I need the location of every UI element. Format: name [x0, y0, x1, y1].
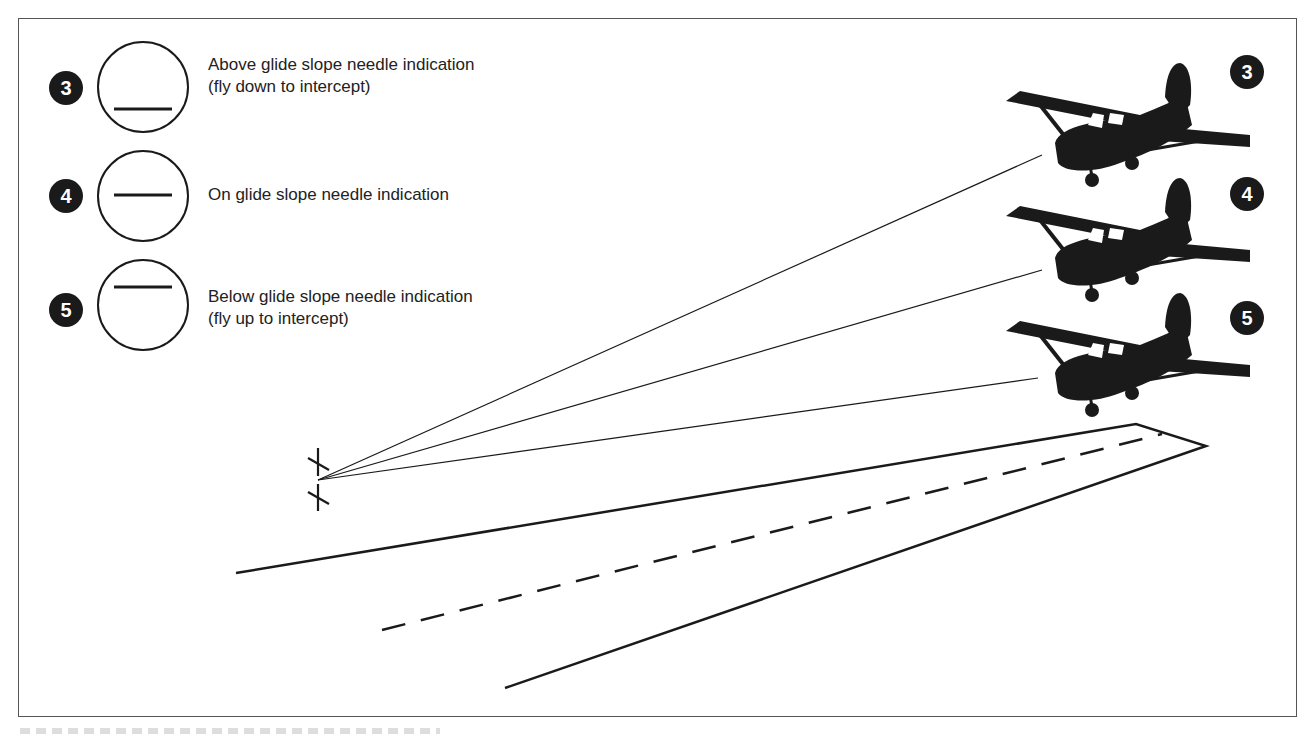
needle-indicator-below	[98, 260, 188, 350]
aircraft-badge-3: 3	[1241, 61, 1252, 83]
runway-centerline	[382, 434, 1162, 630]
aircraft-badges: 3 4 5	[1230, 55, 1264, 335]
aircraft-4	[1006, 178, 1250, 302]
figure-caption-clipped	[20, 728, 440, 734]
legend-item-5: Below glide slope needle indication (fly…	[208, 286, 473, 330]
legend-item-4-line1: On glide slope needle indication	[208, 184, 449, 206]
legend-badge-4: 4	[60, 185, 72, 207]
legend-item-5-line1: Below glide slope needle indication	[208, 286, 473, 308]
glide-slope-diagram: 3 4 5 3 4 5	[0, 0, 1315, 734]
aircraft-3	[1006, 63, 1250, 187]
legend-item-4: On glide slope needle indication	[208, 184, 449, 206]
legend-badge-5: 5	[60, 299, 71, 321]
runway	[236, 424, 1206, 688]
legend-item-3-line1: Above glide slope needle indication	[208, 54, 475, 76]
legend-item-3: Above glide slope needle indication (fly…	[208, 54, 475, 98]
aircraft-badge-4: 4	[1241, 183, 1253, 205]
legend-item-5-line2: (fly up to intercept)	[208, 308, 473, 330]
aircraft-5	[1006, 293, 1250, 417]
legend-badge-3: 3	[60, 77, 71, 99]
legend-item-3-line2: (fly down to intercept)	[208, 76, 475, 98]
aircraft-badge-5: 5	[1241, 307, 1252, 329]
legend-indicators: 3 4 5	[49, 42, 188, 350]
needle-indicator-above	[98, 42, 188, 132]
